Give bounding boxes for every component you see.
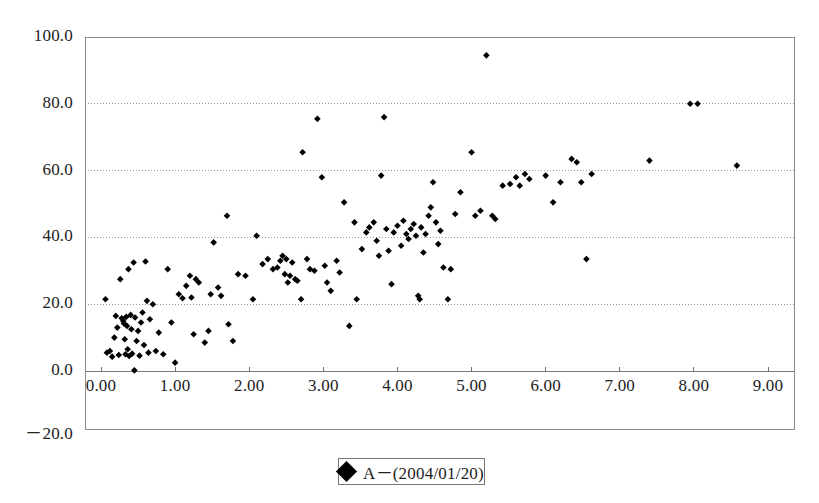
data-point — [215, 284, 222, 291]
data-point — [418, 224, 425, 231]
data-point — [111, 334, 118, 341]
data-point — [359, 246, 366, 253]
data-point — [388, 281, 395, 288]
x-axis-tick-label: 4.00 — [367, 376, 427, 396]
data-point — [336, 269, 343, 276]
data-point — [259, 261, 266, 268]
data-point — [168, 319, 175, 326]
data-point — [324, 279, 331, 286]
x-axis-tick-label: 5.00 — [442, 376, 502, 396]
data-point — [319, 174, 326, 181]
y-axis-tick-label: －20.0 — [0, 419, 73, 444]
data-point — [445, 296, 452, 303]
data-point — [430, 179, 437, 186]
data-point — [341, 199, 348, 206]
data-point — [224, 212, 231, 219]
data-point — [147, 316, 154, 323]
data-point — [522, 171, 529, 178]
plot-canvas — [0, 0, 819, 503]
data-point — [145, 349, 152, 356]
data-point — [235, 271, 242, 278]
data-point — [390, 229, 397, 236]
y-axis-tick-label: 0.0 — [0, 360, 73, 380]
data-point — [483, 52, 490, 59]
data-point — [144, 298, 151, 305]
data-point — [130, 259, 137, 266]
data-point — [378, 172, 385, 179]
y-axis-tick-label: 80.0 — [0, 93, 73, 113]
data-point — [588, 171, 595, 178]
data-point — [117, 276, 124, 283]
data-point — [366, 224, 373, 231]
data-point — [373, 237, 380, 244]
data-point — [363, 229, 370, 236]
data-point — [427, 204, 434, 211]
x-axis-tick-label: 9.00 — [738, 376, 798, 396]
data-point — [440, 264, 447, 271]
data-point — [188, 294, 195, 301]
data-point — [400, 217, 407, 224]
data-point — [164, 266, 171, 273]
data-series — [102, 52, 740, 374]
data-point — [230, 338, 237, 345]
data-point — [394, 222, 401, 229]
data-point — [187, 273, 194, 280]
data-point — [113, 313, 120, 320]
data-point — [398, 242, 405, 249]
y-axis-tick-label: 100.0 — [0, 26, 73, 46]
data-point — [125, 266, 132, 273]
data-point — [694, 101, 701, 108]
data-point — [131, 367, 138, 374]
x-axis-tick-label: 2.00 — [219, 376, 279, 396]
data-point — [304, 256, 311, 263]
data-point — [138, 319, 145, 326]
data-point — [472, 212, 479, 219]
data-point — [225, 321, 232, 328]
data-point — [250, 296, 257, 303]
data-point — [115, 352, 122, 359]
data-point — [420, 249, 427, 256]
data-point — [542, 172, 549, 179]
data-point — [253, 232, 260, 239]
data-point — [218, 293, 225, 300]
data-point — [281, 271, 288, 278]
data-point — [242, 273, 249, 280]
data-point — [109, 353, 116, 360]
data-point — [410, 221, 417, 228]
data-point — [507, 181, 514, 188]
data-point — [207, 291, 214, 298]
data-point — [407, 226, 414, 233]
data-point — [370, 219, 377, 226]
data-point — [205, 328, 212, 335]
data-point — [210, 239, 217, 246]
data-point — [568, 156, 575, 163]
scatter-chart: A－(2004/01/20) －20.00.020.040.060.080.01… — [0, 0, 819, 503]
data-point — [284, 279, 291, 286]
data-point — [327, 288, 334, 295]
data-point — [457, 189, 464, 196]
data-point — [160, 351, 167, 358]
legend-label: A－(2004/01/20) — [363, 459, 484, 484]
data-point — [351, 219, 358, 226]
data-point — [526, 176, 533, 183]
diamond-marker — [336, 461, 357, 482]
data-point — [422, 231, 429, 238]
data-point — [550, 199, 557, 206]
data-point — [141, 342, 148, 349]
data-point — [425, 212, 432, 219]
data-point — [121, 336, 128, 343]
chart-legend: A－(2004/01/20) — [338, 458, 485, 485]
x-axis-tick-label: 0.00 — [71, 376, 131, 396]
data-point — [734, 162, 741, 169]
data-point — [298, 296, 305, 303]
data-point — [583, 256, 590, 263]
data-point — [136, 352, 143, 359]
data-point — [499, 182, 506, 189]
data-point — [172, 359, 179, 366]
data-point — [314, 116, 321, 123]
data-point — [383, 226, 390, 233]
data-point — [573, 159, 580, 166]
data-point — [150, 301, 157, 308]
data-point — [156, 329, 163, 336]
data-point — [183, 283, 190, 290]
